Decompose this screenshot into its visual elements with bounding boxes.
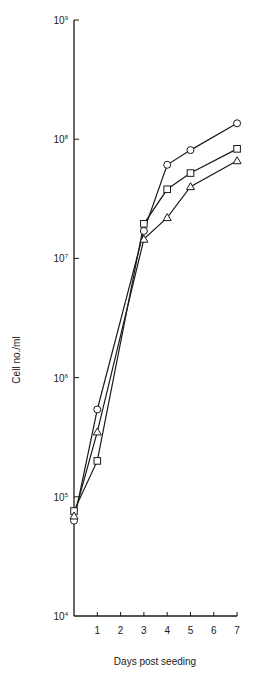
y-tick-label: 108 — [54, 134, 69, 145]
y-tick-label: 104 — [54, 611, 69, 622]
y-axis-label: Cell no./ml — [11, 336, 22, 383]
x-tick-label: 4 — [164, 625, 170, 636]
circle-marker-icon — [234, 120, 241, 127]
x-tick-label: 6 — [211, 625, 217, 636]
circle-marker-icon — [140, 227, 147, 234]
y-tick-label: 106 — [54, 373, 69, 384]
circle-marker-icon — [164, 161, 171, 168]
triangle-marker-icon — [187, 183, 195, 190]
chart-plot: 104105106107108109 1234567 — [0, 0, 258, 674]
triangle-marker-icon — [233, 157, 241, 164]
square-marker-icon — [141, 221, 148, 228]
series-square — [74, 149, 237, 511]
square-marker-icon — [94, 458, 101, 465]
x-axis: 1234567 — [74, 612, 240, 636]
series-lines — [70, 120, 241, 524]
markers-square — [71, 146, 241, 515]
y-tick-label: 109 — [54, 15, 69, 26]
x-tick-label: 5 — [188, 625, 194, 636]
y-axis: 104105106107108109 — [54, 15, 79, 622]
y-tick-label: 107 — [54, 253, 69, 264]
series-line — [74, 149, 237, 511]
x-axis-label: Days post seeding — [114, 656, 196, 667]
square-marker-icon — [187, 170, 194, 177]
x-tick-label: 7 — [234, 625, 240, 636]
square-marker-icon — [234, 146, 241, 153]
circle-marker-icon — [94, 406, 101, 413]
circle-marker-icon — [187, 147, 194, 154]
y-tick-label: 105 — [54, 492, 69, 503]
x-tick-label: 1 — [95, 625, 101, 636]
triangle-marker-icon — [93, 428, 101, 435]
x-tick-label: 3 — [141, 625, 147, 636]
square-marker-icon — [164, 186, 171, 193]
x-tick-label: 2 — [118, 625, 124, 636]
